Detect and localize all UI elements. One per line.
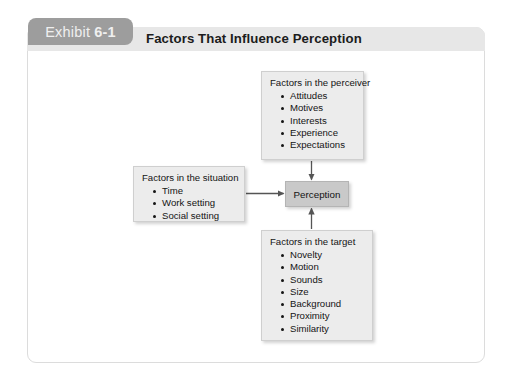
list-item: Experience bbox=[281, 127, 355, 139]
list-item: Expectations bbox=[281, 139, 355, 151]
list-item: Novelty bbox=[281, 249, 364, 261]
perception-node: Perception bbox=[285, 181, 349, 207]
list-item: Time bbox=[153, 185, 236, 197]
factor-box-situation: Factors in the situation Time Work setti… bbox=[133, 166, 245, 222]
perception-diagram: Factors in the perceiver Attitudes Motiv… bbox=[0, 0, 513, 382]
list-item: Attitudes bbox=[281, 90, 355, 102]
factor-box-perceiver-list: Attitudes Motives Interests Experience E… bbox=[270, 90, 355, 151]
list-item: Social setting bbox=[153, 210, 236, 222]
list-item: Motives bbox=[281, 102, 355, 114]
connector-layer bbox=[0, 0, 513, 382]
perception-node-label: Perception bbox=[294, 189, 341, 200]
factor-box-situation-list: Time Work setting Social setting bbox=[142, 185, 236, 222]
list-item: Size bbox=[281, 286, 364, 298]
factor-box-perceiver: Factors in the perceiver Attitudes Motiv… bbox=[261, 71, 364, 160]
factor-box-situation-title: Factors in the situation bbox=[142, 172, 236, 184]
list-item: Proximity bbox=[281, 310, 364, 322]
factor-box-target-list: Novelty Motion Sounds Size Background Pr… bbox=[270, 249, 364, 335]
list-item: Sounds bbox=[281, 274, 364, 286]
factor-box-perceiver-title: Factors in the perceiver bbox=[270, 77, 355, 89]
list-item: Similarity bbox=[281, 323, 364, 335]
factor-box-target-title: Factors in the target bbox=[270, 236, 364, 248]
list-item: Background bbox=[281, 298, 364, 310]
list-item: Work setting bbox=[153, 197, 236, 209]
list-item: Motion bbox=[281, 261, 364, 273]
list-item: Interests bbox=[281, 115, 355, 127]
factor-box-target: Factors in the target Novelty Motion Sou… bbox=[261, 230, 373, 341]
